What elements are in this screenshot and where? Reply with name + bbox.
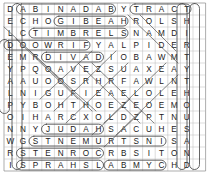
- grid-cell-letter[interactable]: H: [33, 17, 39, 26]
- grid-cell-letter[interactable]: D: [83, 5, 89, 14]
- grid-cell-letter[interactable]: F: [121, 77, 126, 86]
- grid-cell-letter[interactable]: T: [159, 113, 164, 122]
- word-search-grid[interactable]: DABINADABYTRACTECHOGIBEAHROLSHLCTIMBRELS…: [0, 0, 208, 179]
- grid-cell-letter[interactable]: I: [9, 161, 11, 170]
- grid-cell-letter[interactable]: L: [96, 161, 101, 170]
- grid-cell-letter[interactable]: I: [72, 17, 74, 26]
- grid-cell-letter[interactable]: I: [47, 29, 49, 38]
- grid-cell-letter[interactable]: T: [159, 149, 164, 158]
- grid-cell-letter[interactable]: T: [121, 137, 126, 146]
- grid-cell-letter[interactable]: E: [108, 101, 114, 110]
- grid-cell-letter[interactable]: H: [171, 161, 177, 170]
- grid-cell-letter[interactable]: E: [171, 41, 177, 50]
- grid-cell-letter[interactable]: O: [95, 113, 101, 122]
- grid-cell-letter[interactable]: D: [171, 29, 177, 38]
- grid-cell-letter[interactable]: O: [146, 89, 152, 98]
- grid-cell-letter[interactable]: N: [58, 149, 64, 158]
- grid-cell-letter[interactable]: L: [159, 89, 164, 98]
- grid-cell-letter[interactable]: O: [121, 53, 127, 62]
- grid-cell-letter[interactable]: D: [70, 125, 76, 134]
- grid-cell-letter[interactable]: B: [83, 17, 89, 26]
- grid-cell-letter[interactable]: D: [121, 113, 127, 122]
- grid-cell-letter[interactable]: I: [85, 89, 87, 98]
- grid-cell-letter[interactable]: I: [148, 149, 150, 158]
- grid-cell-letter[interactable]: M: [82, 137, 89, 146]
- grid-cell-letter[interactable]: A: [108, 17, 114, 26]
- grid-cell-letter[interactable]: H: [96, 125, 102, 134]
- grid-cell-letter[interactable]: N: [20, 125, 26, 134]
- grid-cell-letter[interactable]: R: [7, 149, 13, 158]
- grid-cell-letter[interactable]: C: [171, 5, 177, 14]
- grid-cell-letter[interactable]: N: [20, 89, 26, 98]
- grid-cell-letter[interactable]: M: [57, 29, 64, 38]
- grid-cell-letter[interactable]: A: [58, 161, 64, 170]
- grid-cell-letter[interactable]: D: [7, 41, 13, 50]
- grid-cell-letter[interactable]: S: [20, 161, 26, 170]
- grid-cell-letter[interactable]: T: [46, 137, 51, 146]
- grid-cell-letter[interactable]: U: [146, 125, 152, 134]
- grid-cell-letter[interactable]: U: [58, 89, 64, 98]
- grid-cell-letter[interactable]: J: [46, 125, 50, 134]
- grid-cell-letter[interactable]: M: [19, 53, 26, 62]
- grid-cell-letter[interactable]: S: [33, 137, 39, 146]
- grid-cell-letter[interactable]: H: [33, 113, 39, 122]
- grid-cell-letter[interactable]: D: [96, 53, 102, 62]
- grid-cell-letter[interactable]: A: [159, 5, 165, 14]
- grid-cell-letter[interactable]: R: [83, 29, 89, 38]
- grid-cell-letter[interactable]: A: [83, 125, 89, 134]
- grid-cell-letter[interactable]: W: [158, 53, 166, 62]
- grid-cell-letter[interactable]: N: [58, 137, 64, 146]
- grid-cell-letter[interactable]: C: [159, 161, 165, 170]
- grid-cell-letter[interactable]: C: [20, 29, 26, 38]
- grid-cell-letter[interactable]: N: [7, 125, 13, 134]
- grid-cell-letter[interactable]: E: [8, 17, 14, 26]
- grid-cell-letter[interactable]: S: [134, 149, 140, 158]
- grid-cell-letter[interactable]: B: [121, 149, 127, 158]
- grid-cell-letter[interactable]: B: [108, 5, 114, 14]
- grid-cell-letter[interactable]: B: [121, 161, 127, 170]
- grid-cell-letter[interactable]: R: [108, 149, 114, 158]
- grid-cell-letter[interactable]: P: [33, 161, 39, 170]
- grid-cell-letter[interactable]: U: [58, 125, 64, 134]
- grid-cell-letter[interactable]: L: [109, 29, 114, 38]
- grid-cell-letter[interactable]: H: [121, 17, 127, 26]
- grid-cell-letter[interactable]: W: [145, 77, 153, 86]
- grid-cell-letter[interactable]: E: [96, 17, 102, 26]
- grid-cell-letter[interactable]: E: [96, 29, 102, 38]
- grid-cell-letter[interactable]: A: [108, 161, 114, 170]
- grid-cell-letter[interactable]: F: [83, 41, 88, 50]
- grid-cell-letter[interactable]: I: [34, 89, 36, 98]
- grid-cell-letter[interactable]: O: [95, 101, 101, 110]
- grid-cell-letter[interactable]: A: [171, 65, 177, 74]
- grid-cell-letter[interactable]: A: [71, 5, 77, 14]
- grid-cell-letter[interactable]: O: [7, 113, 13, 122]
- grid-cell-letter[interactable]: Y: [121, 5, 127, 14]
- grid-cell-letter[interactable]: R: [58, 41, 64, 50]
- grid-cell-letter[interactable]: E: [171, 89, 177, 98]
- grid-cell-letter[interactable]: E: [159, 101, 165, 110]
- grid-cell-letter[interactable]: S: [108, 125, 114, 134]
- grid-cell-letter[interactable]: N: [171, 77, 177, 86]
- grid-cell-letter[interactable]: I: [72, 41, 74, 50]
- grid-cell-letter[interactable]: C: [133, 125, 139, 134]
- grid-cell-letter[interactable]: A: [134, 65, 140, 74]
- grid-cell-letter[interactable]: M: [133, 161, 140, 170]
- grid-cell-letter[interactable]: O: [45, 101, 51, 110]
- grid-cell-letter[interactable]: C: [96, 149, 102, 158]
- grid-cell-letter[interactable]: I: [148, 41, 150, 50]
- grid-cell-letter[interactable]: S: [171, 137, 177, 146]
- grid-cell-letter[interactable]: S: [71, 77, 77, 86]
- grid-cell-letter[interactable]: Y: [33, 125, 39, 134]
- grid-cell-letter[interactable]: A: [58, 65, 64, 74]
- grid-cell-letter[interactable]: S: [134, 137, 140, 146]
- grid-cell-letter[interactable]: D: [45, 53, 51, 62]
- grid-cell-letter[interactable]: E: [71, 137, 77, 146]
- grid-cell-letter[interactable]: S: [83, 161, 89, 170]
- grid-cell-letter[interactable]: P: [20, 65, 26, 74]
- grid-cell-letter[interactable]: O: [171, 149, 177, 158]
- grid-cell-letter[interactable]: R: [58, 113, 64, 122]
- grid-cell-letter[interactable]: N: [146, 137, 152, 146]
- grid-cell-letter[interactable]: Y: [96, 41, 102, 50]
- grid-cell-letter[interactable]: Y: [20, 101, 26, 110]
- grid-cell-letter[interactable]: T: [134, 5, 139, 14]
